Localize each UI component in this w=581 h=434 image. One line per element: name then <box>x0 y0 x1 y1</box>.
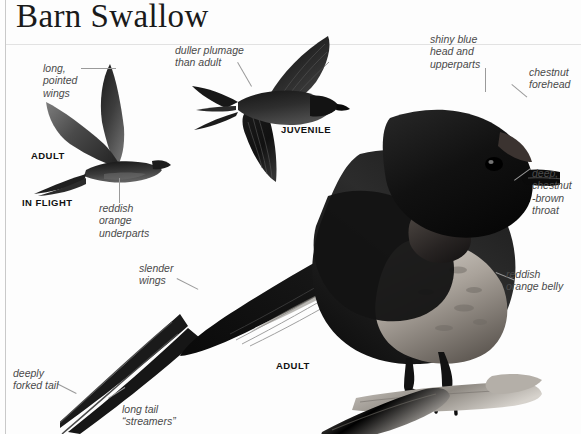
annotation-reddish-orange-underparts: reddish orange underparts <box>99 202 149 239</box>
caption-adult-perched: ADULT <box>276 360 310 371</box>
annotation-reddish-orange-belly: reddish orange belly <box>506 268 563 293</box>
annotation-shiny-blue-head-and-upperparts: shiny blue head and upperparts <box>430 33 480 70</box>
left-margin-rule <box>5 0 6 434</box>
annotation-long-pointed-wings: long, pointed wings <box>43 62 77 99</box>
annotation-deep-chestnut-brown-throat: deep, chestnut -brown throat <box>532 167 572 217</box>
caption-in-flight: IN FLIGHT <box>22 197 73 208</box>
annotation-deeply-forked-tail: deeply forked tail <box>13 367 59 392</box>
barn-swallow-plate: Barn Swallow <box>0 0 581 434</box>
leader-long-pointed-wings <box>81 68 116 69</box>
annotation-slender-wings: slender wings <box>139 262 173 287</box>
annotation-long-tail-streamers: long tail “streamers” <box>122 403 176 428</box>
leader-reddish-orange-underparts <box>119 178 120 203</box>
caption-juvenile: JUVENILE <box>281 124 331 135</box>
adult-perched-illustration <box>60 46 560 434</box>
caption-adult-in-flight: ADULT <box>31 150 65 161</box>
annotation-chestnut-forehead: chestnut forehead <box>529 66 570 91</box>
page-title: Barn Swallow <box>16 0 209 35</box>
annotation-duller-plumage-than-adult: duller plumage than adult <box>175 44 244 69</box>
leader-shiny-blue-head <box>485 68 486 92</box>
